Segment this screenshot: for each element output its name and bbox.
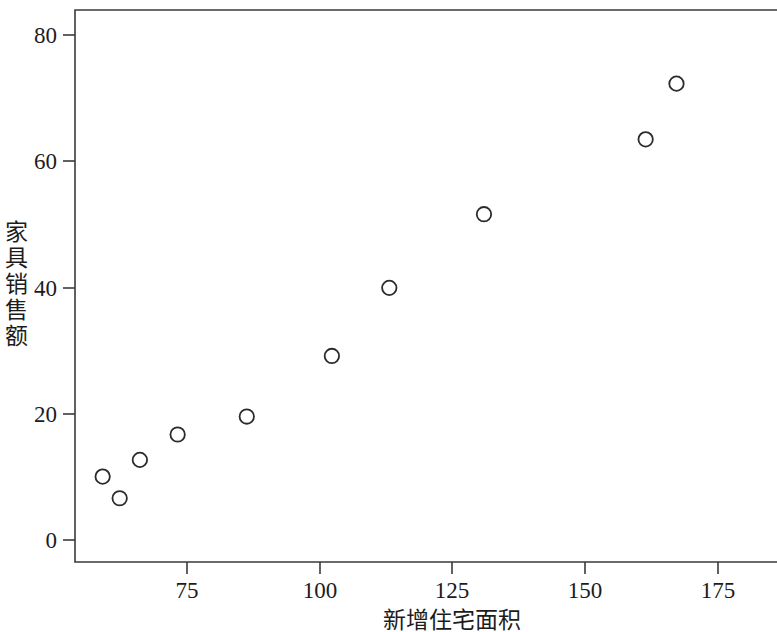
y-axis-title-char-3: 售 (5, 298, 28, 323)
x-axis-tick-labels: 75 100 125 150 175 (176, 578, 736, 603)
y-axis-title: 家 具 销 售 额 (5, 220, 28, 349)
y-axis-title-char-2: 销 (5, 272, 28, 297)
y-tick-label-20: 20 (34, 402, 57, 427)
plot-frame (75, 10, 777, 562)
data-point-marker (170, 427, 184, 441)
data-point-marker (669, 76, 683, 90)
plot-canvas: 80 60 40 20 0 75 100 125 150 175 新增住宅面积 … (0, 0, 777, 632)
x-axis-title: 新增住宅面积 (383, 608, 521, 632)
data-point-marker (477, 207, 491, 221)
y-axis-title-char-1: 具 (5, 246, 28, 271)
data-point-marker (325, 349, 339, 363)
y-axis-title-char-4: 额 (5, 324, 28, 349)
data-point-marker (112, 491, 126, 505)
y-tick-label-80: 80 (34, 23, 57, 48)
data-point-marker (133, 453, 147, 467)
scatter-plot-figure: 80 60 40 20 0 75 100 125 150 175 新增住宅面积 … (0, 0, 777, 632)
data-point-marker (95, 469, 109, 483)
x-axis-ticks (187, 562, 718, 574)
y-tick-label-40: 40 (34, 276, 57, 301)
y-axis-tick-labels: 80 60 40 20 0 (34, 23, 57, 553)
y-tick-label-0: 0 (46, 528, 58, 553)
y-axis-ticks (63, 35, 75, 540)
y-tick-label-60: 60 (34, 149, 57, 174)
data-point-marker (240, 409, 254, 423)
data-point-marker (638, 132, 652, 146)
x-tick-label-100: 100 (303, 578, 338, 603)
x-tick-label-150: 150 (568, 578, 603, 603)
y-axis-title-char-0: 家 (5, 220, 28, 245)
x-tick-label-75: 75 (176, 578, 199, 603)
x-tick-label-175: 175 (701, 578, 736, 603)
scatter-series (95, 76, 683, 505)
data-point-marker (382, 281, 396, 295)
x-tick-label-125: 125 (435, 578, 470, 603)
